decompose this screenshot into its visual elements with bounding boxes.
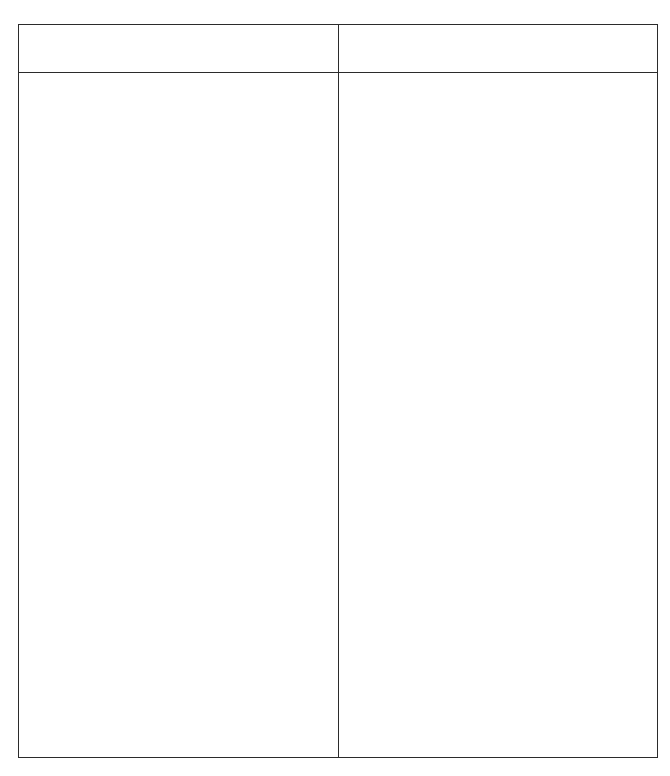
body-cell-left <box>19 73 338 757</box>
body-cell-right <box>339 73 657 757</box>
header-cell-left <box>19 25 338 72</box>
empty-two-column-table <box>18 24 658 758</box>
header-cell-right <box>339 25 657 72</box>
